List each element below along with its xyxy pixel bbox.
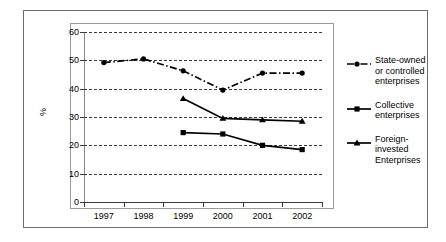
x-tick-label: 2002 xyxy=(292,211,312,221)
data-point-marker xyxy=(300,70,305,75)
x-tick-mark xyxy=(124,202,125,207)
plot-area: 0102030405060 199719981999200020012002 xyxy=(70,23,334,209)
legend-item: Collective enterprises xyxy=(346,100,426,121)
x-tick-label: 1998 xyxy=(133,211,153,221)
legend-marker-icon xyxy=(346,135,372,147)
data-point-marker xyxy=(141,56,146,61)
x-tick-mark xyxy=(282,202,283,207)
data-point-marker xyxy=(181,130,186,135)
x-tick-mark xyxy=(322,202,323,207)
legend-marker-icon xyxy=(346,101,372,113)
data-point-marker xyxy=(220,131,225,136)
axes-region: 0102030405060 199719981999200020012002 xyxy=(84,32,322,202)
legend-item: Foreign-invested Enterprises xyxy=(346,134,426,166)
x-tick-mark xyxy=(163,202,164,207)
legend-label: State-owned or controlled enterprises xyxy=(375,55,426,87)
x-tick-mark xyxy=(203,202,204,207)
legend-item: State-owned or controlled enterprises xyxy=(346,55,426,87)
legend-label: Foreign-invested Enterprises xyxy=(375,134,426,166)
data-point-marker xyxy=(300,147,305,152)
data-point-marker xyxy=(101,60,106,65)
data-point-marker xyxy=(180,95,187,101)
y-tick-label: 20 xyxy=(69,140,79,150)
x-tick-label: 2000 xyxy=(213,211,233,221)
chart-legend: State-owned or controlled enterprisesCol… xyxy=(346,55,426,178)
data-point-marker xyxy=(260,143,265,148)
y-tick-label: 10 xyxy=(69,169,79,179)
series-line xyxy=(104,59,302,90)
y-tick-label: 40 xyxy=(69,84,79,94)
series-lines xyxy=(84,32,322,202)
data-point-marker xyxy=(220,87,225,92)
x-tick-label: 1997 xyxy=(94,211,114,221)
x-tick-label: 1999 xyxy=(173,211,193,221)
y-tick-label: 50 xyxy=(69,55,79,65)
series-line xyxy=(183,133,302,150)
legend-label: Collective enterprises xyxy=(375,100,426,121)
chart-figure: % 0102030405060 199719981999200020012002… xyxy=(23,10,428,228)
x-tick-mark xyxy=(84,202,85,207)
y-tick-label: 0 xyxy=(74,197,79,207)
x-tick-mark xyxy=(243,202,244,207)
data-point-marker xyxy=(260,70,265,75)
series-line xyxy=(183,99,302,122)
data-point-marker xyxy=(181,68,186,73)
y-tick-label: 60 xyxy=(69,27,79,37)
x-tick-label: 2001 xyxy=(252,211,272,221)
legend-marker-icon xyxy=(346,56,372,68)
y-tick-label: 30 xyxy=(69,112,79,122)
y-axis-label: % xyxy=(38,92,48,132)
